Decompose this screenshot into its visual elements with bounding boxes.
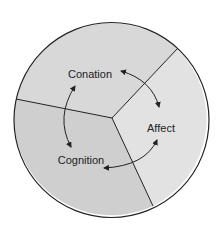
attitude-components-diagram: Conation Affect Cognition [0,0,220,234]
label-cognition: Cognition [58,154,104,166]
label-conation: Conation [68,68,112,80]
label-affect: Affect [147,122,175,134]
